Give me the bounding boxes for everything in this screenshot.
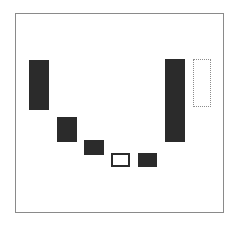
block-5-filled-rect	[138, 153, 157, 167]
block-1-filled-rect	[29, 60, 49, 110]
diagram-frame	[15, 13, 224, 213]
block-7-dotted-rect	[193, 59, 211, 107]
block-6-filled-rect	[165, 59, 185, 142]
block-3-filled-rect	[84, 140, 104, 155]
block-2-filled-rect	[57, 117, 77, 142]
block-4-outlined-rect	[111, 153, 130, 167]
